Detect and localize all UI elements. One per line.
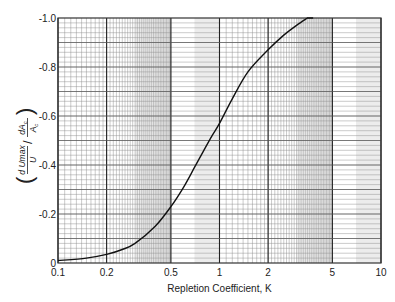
y-label-den-bottom: Ac bbox=[28, 124, 39, 134]
x-tick-label: 0.2 bbox=[100, 267, 114, 278]
x-axis-ticks: 0.10.20.512510 bbox=[51, 267, 387, 278]
y-label-num-bottom: U bbox=[28, 156, 38, 163]
y-tick-label: -0.2 bbox=[39, 209, 57, 220]
x-tick-label: 2 bbox=[265, 267, 271, 278]
x-tick-label: 10 bbox=[375, 267, 387, 278]
x-tick-label: 0.1 bbox=[51, 267, 65, 278]
x-tick-label: 0.5 bbox=[164, 267, 178, 278]
x-axis-label: Repletion Coefficient, K bbox=[167, 283, 272, 294]
y-tick-label: -0.4 bbox=[39, 160, 57, 171]
major-grid bbox=[58, 18, 381, 263]
y-label-num-top: d Umax bbox=[17, 145, 27, 175]
y-tick-label: -0.6 bbox=[39, 111, 57, 122]
y-label-close-paren: ) bbox=[12, 108, 37, 115]
chart: 0.10.20.512510 0-0.2-0.4-0.6-0.8-1.0 Rep… bbox=[0, 0, 395, 302]
y-label-slash: / bbox=[20, 140, 35, 144]
y-axis-label: ( d Umax U / dAc Ac ) bbox=[12, 108, 39, 184]
y-label-open-paren: ( bbox=[12, 176, 37, 184]
y-tick-label: -0.8 bbox=[39, 62, 57, 73]
y-tick-label: 0 bbox=[50, 258, 56, 269]
x-tick-label: 5 bbox=[330, 267, 336, 278]
y-tick-label: -1.0 bbox=[39, 13, 57, 24]
y-label-den-top: dAc bbox=[17, 121, 28, 134]
x-tick-label: 1 bbox=[217, 267, 223, 278]
y-axis-ticks: 0-0.2-0.4-0.6-0.8-1.0 bbox=[39, 13, 57, 269]
